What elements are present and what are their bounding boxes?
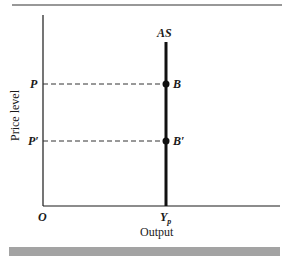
footer-bar [9,247,280,256]
x-axis-label: Output [140,225,173,240]
as-label: AS [157,27,172,39]
b-prime-label: B′ [173,135,184,147]
point-b-prime [163,138,170,145]
b-label: B [173,78,181,90]
origin-label: O [38,211,47,223]
point-b [163,81,170,88]
p-label: P [30,78,37,90]
y-axis-label: Price level [8,81,23,151]
p-prime-label: P′ [28,135,39,147]
